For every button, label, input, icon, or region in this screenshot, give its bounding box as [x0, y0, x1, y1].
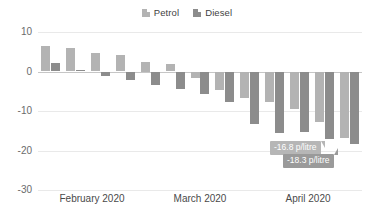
legend-swatch-icon: [193, 9, 201, 17]
legend-item-diesel[interactable]: Diesel: [193, 8, 232, 18]
bar-diesel[interactable]: [225, 72, 234, 102]
bar-group: [113, 32, 138, 190]
bar-petrol[interactable]: [240, 72, 249, 98]
x-axis-tick-march: March 2020: [146, 194, 254, 204]
bar-diesel[interactable]: [76, 70, 85, 72]
petrol-callout-label: -16.8 p/litre: [274, 142, 317, 152]
bar-petrol[interactable]: [215, 72, 224, 90]
y-axis-tick-neg30: -30: [18, 185, 32, 195]
y-axis-tick-neg20: -20: [18, 146, 32, 156]
legend-label-diesel: Diesel: [205, 8, 232, 18]
y-axis-tick-neg10: -10: [18, 106, 32, 116]
bar-diesel[interactable]: [176, 72, 185, 90]
bar-group: [163, 32, 188, 190]
bar-petrol[interactable]: [91, 53, 100, 72]
bar-petrol[interactable]: [290, 72, 299, 110]
bar-diesel[interactable]: [126, 72, 135, 81]
bar-petrol[interactable]: [41, 46, 50, 72]
x-axis-tick-april: April 2020: [254, 194, 362, 204]
bar-petrol[interactable]: [116, 55, 125, 72]
bar-petrol[interactable]: [66, 48, 75, 71]
legend-item-petrol[interactable]: Petrol: [142, 8, 179, 18]
y-axis-tick-0: 0: [26, 67, 32, 77]
bar-petrol[interactable]: [265, 72, 274, 103]
bar-diesel[interactable]: [350, 72, 359, 144]
bar-group: [188, 32, 213, 190]
diesel-callout-label: -18.3 p/litre: [287, 155, 330, 165]
bar-group: [63, 32, 88, 190]
legend-swatch-icon: [142, 9, 150, 17]
chart-legend: Petrol Diesel: [0, 8, 374, 18]
bar-group: [337, 32, 362, 190]
petrol-callout: -16.8 p/litre: [270, 141, 321, 155]
diesel-callout: -18.3 p/litre: [283, 154, 334, 168]
bar-group: [138, 32, 163, 190]
bar-diesel[interactable]: [275, 72, 284, 134]
legend-label-petrol: Petrol: [154, 8, 179, 18]
bar-diesel[interactable]: [101, 72, 110, 77]
bar-petrol[interactable]: [191, 72, 200, 78]
bar-group: [212, 32, 237, 190]
x-axis: February 2020 March 2020 April 2020: [38, 194, 362, 204]
x-axis-tick-february: February 2020: [38, 194, 146, 204]
bar-diesel[interactable]: [250, 72, 259, 124]
callout-tail-icon: [334, 148, 338, 155]
bar-petrol[interactable]: [315, 72, 324, 123]
bar-group: [38, 32, 63, 190]
callout-tail-icon: [321, 141, 325, 148]
bar-petrol[interactable]: [166, 64, 175, 72]
bar-diesel[interactable]: [151, 72, 160, 86]
gridline: [38, 190, 362, 191]
bar-group: [88, 32, 113, 190]
bar-diesel[interactable]: [200, 72, 209, 94]
bar-group: [237, 32, 262, 190]
bar-petrol[interactable]: [340, 72, 349, 138]
y-axis-tick-10: 10: [21, 27, 32, 37]
fuel-price-change-chart: Petrol Diesel 100-10-20-30 February 2020…: [0, 0, 374, 221]
bar-petrol[interactable]: [141, 62, 150, 72]
bar-diesel[interactable]: [300, 72, 309, 133]
bar-diesel[interactable]: [325, 72, 334, 140]
bar-diesel[interactable]: [51, 63, 60, 72]
